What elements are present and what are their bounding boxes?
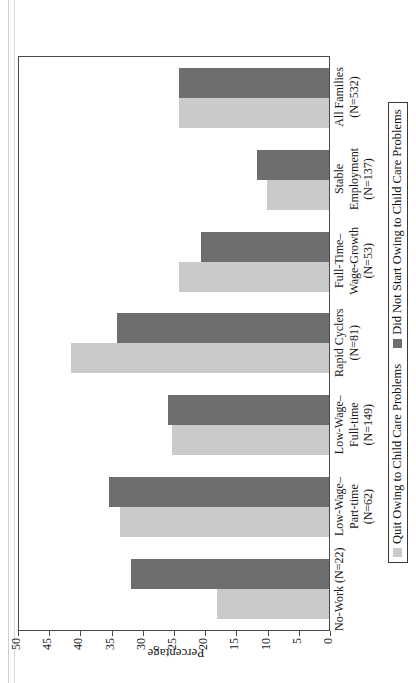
x-axis-category-labels: No-Work (N=22)Low-Wage–Part-time(N=62)Lo… [332,56,388,631]
y-axis-tick-mark [268,631,269,636]
x-axis-category-line: Employment [347,138,362,220]
bar-groups [19,57,329,630]
rotated-figure-wrapper: Percentage 05101520253035404550 No-Work … [0,0,416,683]
y-axis-tick-label: 5 [291,638,303,644]
x-axis-category-label: Low-Wage–Part-time(N=62) [332,466,388,548]
x-axis-category-line: (N=81) [347,302,362,384]
y-axis-tick-mark [18,631,19,636]
bar-did-not-start [117,314,329,344]
bar-quit [71,344,329,374]
bar-quit [172,425,329,455]
x-axis-category-line: (N=53) [361,220,376,302]
y-axis-tick-label: 20 [197,638,209,650]
legend-item-did-not-start: Did Not Start Owing to Child Care Proble… [391,109,404,347]
y-axis-tick-mark [299,631,300,636]
y-axis-tick-label: 45 [41,638,53,650]
y-axis-tick-label: 10 [260,638,272,650]
bar-did-not-start [201,232,329,262]
bar-group [19,57,329,139]
legend-item-quit: Quit Owing to Child Care Problems [391,364,404,557]
x-axis-category-line: Part-time [347,466,362,548]
y-axis-tick-mark [205,631,206,636]
x-axis-category-label: StableEmployment(N=137) [332,138,388,220]
bar-group [19,466,329,548]
bar-quit [179,98,329,128]
bar-did-not-start [179,68,329,98]
x-axis-category-line: All Families [332,56,347,138]
y-axis-tick-label: 50 [10,638,22,650]
x-axis-category-line: Wage-Growth [347,220,362,302]
x-axis-category-line: Low-Wage– [332,384,347,466]
bar-group [19,303,329,385]
x-axis-category-label: Full-Time–Wage-Growth(N=53) [332,220,388,302]
plot-area [18,56,330,631]
bar-quit [267,180,329,210]
y-axis-tick-label: 25 [166,638,178,650]
legend-label-did-not-start: Did Not Start Owing to Child Care Proble… [391,109,404,334]
bar-group [19,139,329,221]
x-axis-category-line: Full-Time– [332,220,347,302]
bar-quit [120,507,329,537]
bar-did-not-start [257,150,329,180]
y-axis-tick-mark [112,631,113,636]
x-axis-category-line: (N=62) [361,466,376,548]
bar-group [19,384,329,466]
x-axis-category-label: Rapid Cyclers(N=81) [332,302,388,384]
bar-group [19,548,329,630]
x-axis-category-label: Low-Wage–Full-time(N=149) [332,384,388,466]
y-axis-tick-label: 35 [104,638,116,650]
y-axis-tick-mark [236,631,237,636]
legend-swatch-icon-dark [393,339,402,348]
x-axis-category-line: Rapid Cyclers [332,302,347,384]
y-axis-tick-label: 30 [135,638,147,650]
bar-group [19,221,329,303]
chart-legend: Quit Owing to Child Care Problems Did No… [388,102,408,563]
legend-label-quit: Quit Owing to Child Care Problems [391,364,404,544]
bar-did-not-start [168,395,329,425]
y-axis-tick-mark [330,631,331,636]
x-axis-category-line: (N=137) [361,138,376,220]
bar-chart-figure: Percentage 05101520253035404550 No-Work … [0,0,416,683]
bar-quit [179,262,329,292]
bar-quit [217,589,329,619]
y-axis-tick-mark [143,631,144,636]
x-axis-category-line: Stable [332,138,347,220]
bar-did-not-start [131,559,329,589]
x-axis-category-label: No-Work (N=22) [332,548,388,631]
y-axis-tick-label: 15 [228,638,240,650]
x-axis-category-line: (N=149) [361,384,376,466]
x-axis-category-line: No-Work (N=22) [332,548,347,631]
x-axis-category-line: (N=532) [347,56,362,138]
x-axis-category-label: All Families(N=532) [332,56,388,138]
bar-did-not-start [109,477,329,507]
y-axis-tick-mark [49,631,50,636]
legend-swatch-icon-light [393,548,402,557]
y-axis-tick-mark [80,631,81,636]
y-axis-tick-label: 0 [322,638,334,644]
y-axis-tick-mark [174,631,175,636]
x-axis-category-line: Low-Wage– [332,466,347,548]
x-axis-category-line: Full-time [347,384,362,466]
y-axis-tick-label: 40 [72,638,84,650]
y-axis: Percentage 05101520253035404550 [18,631,330,683]
